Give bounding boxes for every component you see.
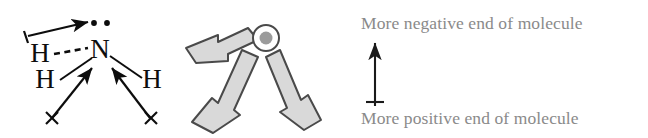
lewis-structure-panel: N H H H [0,0,186,138]
dipole-tail-cross-right [145,112,157,124]
bond-solid-hydrogen-right [110,56,142,78]
dipole-tail-cross-lone-pair [24,31,28,43]
net-dipole-circle [253,25,279,51]
block-arrow-lower-right [266,50,321,130]
atom-label-hydrogen-lower-left: H [35,64,55,94]
atom-label-nitrogen: N [90,34,110,64]
dipole-diagram: N H H H [0,0,648,138]
lone-pair-electrons [91,20,110,26]
legend-panel: More negative end of molecule More posit… [340,0,648,138]
atom-label-hydrogen-right: H [142,64,162,94]
net-dipole-arrow-svg [353,36,413,116]
legend-label-negative-end: More negative end of molecule [361,13,583,34]
lewis-structure-svg: N H H H [0,0,186,138]
bond-dashed-hydrogen-nitrogen [54,48,88,54]
legend-label-positive-end: More positive end of molecule [361,108,579,129]
dipole-tail-cross-lower-left [46,112,58,124]
vector-sum-panel [180,0,340,138]
bond-solid-hydrogen-lower-left [60,58,92,80]
vector-sum-svg [180,0,340,138]
